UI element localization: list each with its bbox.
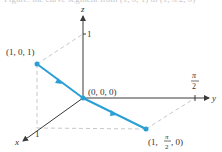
dashed-guide-bottom	[37, 128, 146, 129]
x-axis-label: x	[14, 137, 19, 147]
axes	[23, 16, 209, 141]
z-axis-label: z	[80, 4, 85, 14]
x-tick-label: 1	[35, 129, 40, 139]
direction-arrow-icon	[110, 110, 117, 116]
dashed-guide-end-to-y	[146, 98, 195, 129]
y-tick-numerator: π	[192, 71, 197, 80]
dashed-guide-start-to-z	[37, 34, 83, 64]
point-start	[35, 62, 40, 67]
point-end-label-suffix: , 0)	[171, 137, 183, 147]
z-tick-label: 1	[87, 29, 92, 39]
point-origin	[81, 96, 86, 101]
point-start-label: (1, 0, 1)	[6, 47, 35, 57]
point-end-label-num: π	[165, 133, 169, 141]
point-end-label-den: 2	[165, 143, 169, 151]
x-axis	[23, 98, 83, 141]
point-end	[144, 127, 149, 132]
point-origin-label: (0, 0, 0)	[88, 87, 117, 97]
y-axis-label: y	[211, 93, 216, 103]
y-tick-denominator: 2	[192, 82, 196, 91]
3d-path-diagram: z 1 y π 2 x 1 (1, 0, 1) (0, 0, 0) (1, π …	[0, 0, 222, 152]
point-end-label-prefix: (1,	[148, 137, 158, 147]
